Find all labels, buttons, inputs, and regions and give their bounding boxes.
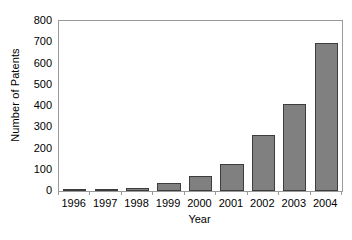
x-axis-tick-label: 1996: [58, 196, 89, 212]
x-axis-tick-label: 2000: [184, 196, 215, 212]
plot-area: [58, 20, 343, 192]
x-axis-tick-mark: [247, 191, 248, 195]
bars-layer: [59, 21, 342, 191]
x-axis-tick-mark: [278, 191, 279, 195]
x-axis-tick-label: 1998: [121, 196, 152, 212]
bar: [283, 104, 306, 191]
x-axis-tick-mark: [184, 191, 185, 195]
x-axis-tick-mark: [152, 191, 153, 195]
x-axis-tick-mark: [341, 191, 342, 195]
bar: [157, 183, 180, 191]
y-axis-tick-label: 0: [22, 184, 52, 196]
x-axis-title: Year: [58, 213, 341, 225]
y-axis-title-text: Number of Patents: [9, 48, 21, 141]
x-axis-tick-label: 2003: [278, 196, 309, 212]
bar-slot: [185, 21, 216, 191]
bar-slot: [311, 21, 342, 191]
bar-slot: [59, 21, 90, 191]
bar: [189, 176, 212, 191]
bar-slot: [153, 21, 184, 191]
bar-slot: [122, 21, 153, 191]
y-axis-tick-label: 200: [22, 142, 52, 154]
y-axis-tick-label: 700: [22, 35, 52, 47]
x-axis-tick-label: 1997: [89, 196, 120, 212]
x-axis-tick-label: 1999: [152, 196, 183, 212]
patents-bar-chart: Number of Patents 0100200300400500600700…: [0, 0, 352, 240]
bar: [252, 135, 275, 191]
x-axis-tick-labels: 199619971998199920002001200220032004: [58, 196, 341, 212]
bar-slot: [279, 21, 310, 191]
x-axis-tick-mark: [310, 191, 311, 195]
y-axis-tick-label: 100: [22, 163, 52, 175]
y-axis-tick-label: 800: [22, 14, 52, 26]
y-axis-tick-label: 300: [22, 120, 52, 132]
y-axis-tick-labels: 0100200300400500600700800: [22, 14, 52, 190]
bar: [220, 164, 243, 191]
bar-slot: [216, 21, 247, 191]
bar-slot: [90, 21, 121, 191]
x-axis-tick-label: 2004: [310, 196, 341, 212]
x-axis-tick-mark: [89, 191, 90, 195]
y-axis-tick-label: 500: [22, 78, 52, 90]
x-axis-tick-mark: [215, 191, 216, 195]
x-axis-tick-mark: [58, 191, 59, 195]
x-axis-tick-mark: [121, 191, 122, 195]
x-axis-tick-label: 2001: [215, 196, 246, 212]
bar: [315, 43, 338, 191]
x-axis-tick-label: 2002: [247, 196, 278, 212]
bar-slot: [248, 21, 279, 191]
y-axis-tick-label: 600: [22, 57, 52, 69]
y-axis-tick-label: 400: [22, 99, 52, 111]
